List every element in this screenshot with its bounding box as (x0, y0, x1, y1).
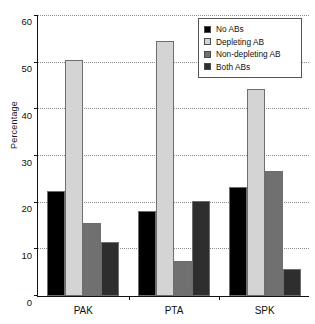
legend-item: Both ABs (204, 61, 296, 74)
bar-pta-3 (192, 201, 210, 296)
x-tick (129, 296, 130, 300)
chart-legend: No ABsDepleting ABNon-depleting ABBoth A… (198, 18, 302, 78)
legend-item: No ABs (204, 23, 296, 36)
x-tick (219, 296, 220, 300)
legend-swatch-icon (204, 63, 211, 70)
bar-chart: Percentage 0102030405060 PAKPTASPK No AB… (0, 0, 315, 324)
bar-spk-1 (247, 89, 265, 296)
bar-pta-0 (138, 211, 156, 296)
legend-item: Non-depleting AB (204, 48, 296, 61)
bar-pak-2 (83, 223, 101, 296)
legend-item-label: Both ABs (216, 63, 250, 71)
bar-pak-1 (65, 60, 83, 296)
x-tick-label-pak: PAK (74, 305, 93, 316)
legend-item-label: Non-depleting AB (216, 50, 281, 58)
bar-pak-0 (47, 191, 65, 296)
legend-swatch-icon (204, 26, 211, 33)
x-tick-label-pta: PTA (165, 305, 184, 316)
x-tick-label-spk: SPK (255, 305, 275, 316)
legend-item: Depleting AB (204, 36, 296, 49)
legend-swatch-icon (204, 38, 211, 45)
bar-pta-1 (156, 41, 174, 296)
bar-pta-2 (174, 261, 192, 296)
legend-item-label: Depleting AB (216, 38, 264, 46)
bar-spk-3 (283, 269, 301, 296)
legend-swatch-icon (204, 51, 211, 58)
legend-item-label: No ABs (216, 25, 244, 33)
bar-pak-3 (101, 242, 119, 296)
bar-spk-0 (229, 187, 247, 296)
y-axis-title: Percentage (9, 85, 19, 165)
bar-spk-2 (265, 171, 283, 297)
